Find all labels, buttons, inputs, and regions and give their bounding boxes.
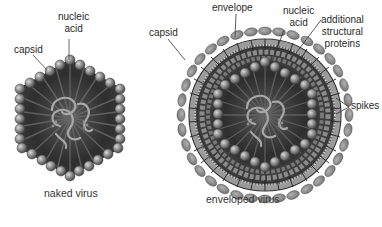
additional-label-line2: structural: [321, 26, 364, 38]
envelope-label: envelope: [212, 2, 253, 14]
additional-label-line3: proteins: [321, 38, 364, 50]
enveloped-nucleic-acid-label: nucleic acid: [283, 5, 314, 29]
enveloped-capsid-label: capsid: [149, 27, 178, 39]
enveloped-capsid-leader: [168, 39, 185, 60]
naked-virus: [15, 39, 125, 181]
virus-structure-diagram: nucleic acid capsid naked virus envelope…: [0, 0, 382, 227]
naked-capsid-leader: [33, 55, 47, 70]
naked-nucleic-acid-label: nucleic acid: [58, 11, 89, 35]
naked-nucleic-acid-label-line1: nucleic: [58, 11, 89, 23]
additional-structural-proteins-label: additional structural proteins: [321, 14, 364, 50]
spikes-label: spikes: [351, 100, 379, 112]
enveloped-virus-caption: enveloped virus: [206, 193, 280, 205]
naked-nucleic-acid-label-line2: acid: [58, 23, 89, 35]
naked-capsid-label: capsid: [14, 44, 43, 56]
enveloped-nucleic-acid-label-line2: acid: [283, 17, 314, 29]
enveloped-nucleic-acid-label-line1: nucleic: [283, 5, 314, 17]
additional-label-line1: additional: [321, 14, 364, 26]
naked-virus-caption: naked virus: [44, 187, 98, 199]
